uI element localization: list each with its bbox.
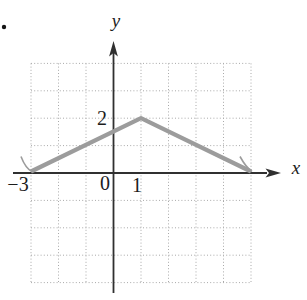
x-axis-label: x bbox=[291, 157, 301, 178]
tick-label-x1: 1 bbox=[132, 174, 142, 196]
list-bullet-icon bbox=[2, 25, 6, 29]
x-axis-arrowhead-icon bbox=[266, 169, 282, 178]
function-graph: y x 2 0 1 −3 bbox=[0, 0, 307, 300]
tick-label-origin: 0 bbox=[100, 172, 110, 194]
textbook-figure: y x 2 0 1 −3 bbox=[0, 0, 307, 300]
tick-label-y2: 2 bbox=[97, 107, 107, 129]
y-axis-label: y bbox=[110, 10, 121, 31]
tick-label-xneg3: −3 bbox=[7, 173, 28, 195]
